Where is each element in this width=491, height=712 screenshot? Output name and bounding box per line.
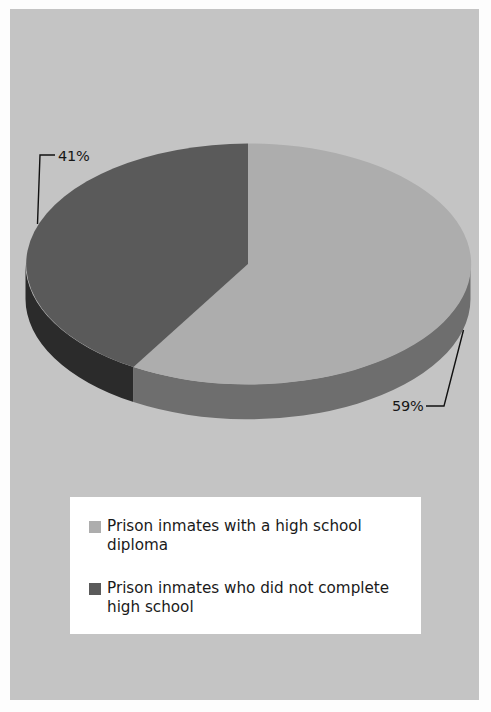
chart-legend: Prison inmates with a high school diplom… — [70, 497, 421, 634]
legend-item-no-high-school[interactable]: Prison inmates who did not complete high… — [89, 579, 419, 617]
chart-page: 41% 59% Prison inmates with a high schoo… — [0, 0, 491, 712]
slice-41-percent-label: 41% — [58, 148, 90, 164]
legend-swatch-icon — [89, 521, 101, 533]
legend-item-high-school-diploma[interactable]: Prison inmates with a high school diplom… — [89, 517, 407, 555]
slice-59-percent-label: 59% — [392, 398, 424, 414]
legend-item-label: Prison inmates with a high school diplom… — [107, 517, 407, 555]
legend-item-label: Prison inmates who did not complete high… — [107, 579, 419, 617]
legend-swatch-icon — [89, 583, 101, 595]
